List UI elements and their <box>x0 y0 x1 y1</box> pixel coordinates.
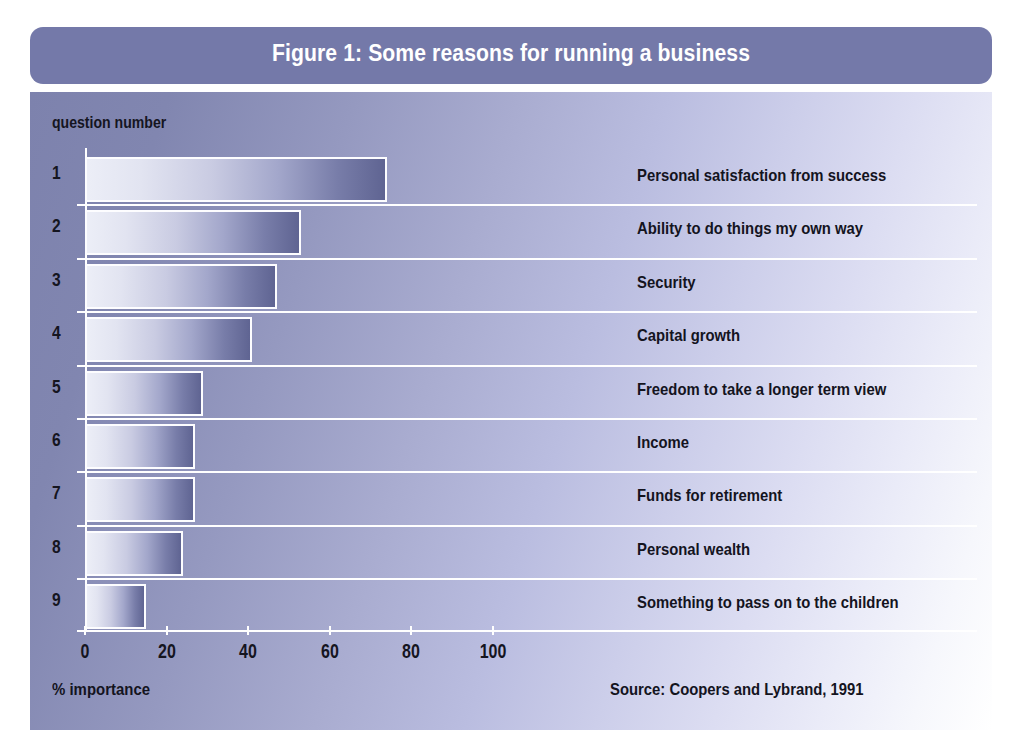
category-label: Capital growth <box>637 326 740 345</box>
chart-row: 8Personal wealth <box>30 528 992 581</box>
chart-row: 6Income <box>30 421 992 474</box>
category-label: Funds for retirement <box>637 486 782 505</box>
category-label: Personal wealth <box>637 540 750 559</box>
question-number-label: 1 <box>52 162 61 184</box>
question-number-label: 6 <box>52 429 61 451</box>
figure-title: Figure 1: Some reasons for running a bus… <box>68 40 953 67</box>
figure-title-bar: Figure 1: Some reasons for running a bus… <box>30 27 992 84</box>
source-note: Source: Coopers and Lybrand, 1991 <box>610 680 864 699</box>
x-axis-tick-label: 20 <box>158 640 176 663</box>
x-axis-caption: % importance <box>52 680 150 700</box>
category-label: Ability to do things my own way <box>637 219 863 238</box>
chart-row: 5Freedom to take a longer term view <box>30 368 992 421</box>
question-number-label: 5 <box>52 376 61 398</box>
chart-bar <box>85 210 301 255</box>
question-number-label: 9 <box>52 589 61 611</box>
chart-bar <box>85 424 195 469</box>
category-label: Personal satisfaction from success <box>637 166 886 185</box>
x-axis-tick-label: 60 <box>321 640 339 663</box>
x-axis-tick-label: 40 <box>239 640 257 663</box>
chart-row: 4Capital growth <box>30 314 992 367</box>
chart-bar <box>85 157 387 202</box>
x-axis-tick <box>247 626 249 635</box>
chart-row: 1Personal satisfaction from success <box>30 154 992 207</box>
question-number-label: 7 <box>52 482 61 504</box>
chart-bar <box>85 317 252 362</box>
category-label: Security <box>637 273 696 292</box>
plot-area: question number % importance Source: Coo… <box>30 92 992 730</box>
chart-bar <box>85 477 195 522</box>
y-axis-caption: question number <box>52 114 166 132</box>
x-axis-tick <box>166 626 168 635</box>
x-axis-tick-label: 80 <box>402 640 420 663</box>
x-axis-tick <box>84 626 86 635</box>
figure-container: Figure 1: Some reasons for running a bus… <box>0 0 1022 755</box>
chart-panel: question number % importance Source: Coo… <box>30 92 992 730</box>
x-axis-tick <box>492 626 494 635</box>
x-axis-tick <box>329 626 331 635</box>
category-label: Income <box>637 433 689 452</box>
chart-bar <box>85 531 183 576</box>
question-number-label: 8 <box>52 536 61 558</box>
chart-row: 2Ability to do things my own way <box>30 207 992 260</box>
x-axis-tick-label: 100 <box>480 640 507 663</box>
category-label: Something to pass on to the children <box>637 593 899 612</box>
question-number-label: 3 <box>52 269 61 291</box>
question-number-label: 2 <box>52 215 61 237</box>
chart-bar <box>85 371 203 416</box>
category-label: Freedom to take a longer term view <box>637 380 886 399</box>
chart-bar <box>85 584 146 629</box>
chart-row: 3Security <box>30 261 992 314</box>
chart-row: 7Funds for retirement <box>30 474 992 527</box>
chart-row: 9Something to pass on to the children <box>30 581 992 634</box>
question-number-label: 4 <box>52 322 61 344</box>
chart-bar <box>85 264 277 309</box>
x-axis-tick-label: 0 <box>81 640 90 663</box>
x-axis-tick <box>410 626 412 635</box>
